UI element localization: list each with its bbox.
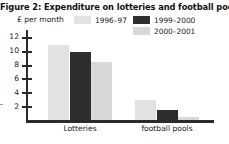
legend-swatch-1999-2000 bbox=[133, 16, 150, 24]
bar bbox=[178, 117, 199, 120]
y-tick-label: 6 bbox=[14, 74, 19, 83]
plot-area: 24681012 Lotteriesfootball pools bbox=[26, 30, 214, 122]
bar bbox=[70, 52, 91, 120]
legend-swatch-1996-97 bbox=[74, 16, 91, 24]
legend-item-1999-2000: 1999–2000 bbox=[133, 15, 195, 25]
y-tick: 8 bbox=[22, 65, 32, 67]
y-tick: 4 bbox=[22, 92, 32, 94]
page-edge-mark bbox=[0, 104, 3, 105]
y-tick: 10 bbox=[22, 51, 32, 53]
bar bbox=[157, 110, 178, 120]
y-tick-label: 4 bbox=[14, 88, 19, 97]
y-axis-label: £ per month bbox=[17, 15, 64, 24]
legend-item-1996-97: 1996–97 bbox=[74, 15, 127, 25]
y-tick-label: 2 bbox=[14, 102, 19, 111]
chart-title: Figure 2: Expenditure on lotteries and f… bbox=[0, 2, 229, 12]
y-tick-label: 10 bbox=[9, 46, 19, 55]
x-axis-line bbox=[26, 120, 214, 123]
y-tick: 2 bbox=[22, 106, 32, 108]
legend-label-1999-2000: 1999–2000 bbox=[154, 16, 195, 25]
category-label: Lotteries bbox=[48, 124, 112, 133]
category-label: football pools bbox=[135, 124, 199, 133]
legend-label-1996-97: 1996–97 bbox=[95, 16, 127, 25]
y-tick-label: 8 bbox=[14, 60, 19, 69]
y-tick-label: 12 bbox=[9, 32, 19, 41]
figure-container: Figure 2: Expenditure on lotteries and f… bbox=[0, 0, 229, 144]
bar bbox=[135, 100, 156, 120]
bar bbox=[48, 45, 69, 120]
y-tick: 6 bbox=[22, 78, 32, 80]
y-axis-line bbox=[26, 30, 28, 122]
y-tick: 12 bbox=[22, 37, 32, 39]
bar bbox=[91, 62, 112, 120]
